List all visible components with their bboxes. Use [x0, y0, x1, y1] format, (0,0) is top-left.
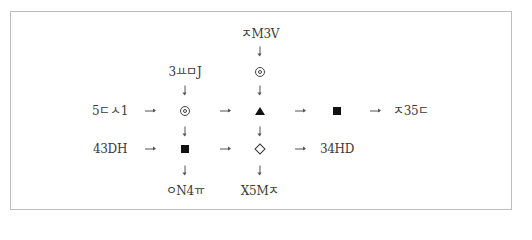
- arrow-right-icon: [295, 111, 305, 112]
- arrow-down-icon: [260, 47, 261, 56]
- double-circle-icon: [180, 106, 190, 116]
- arrow-down-icon: [185, 166, 186, 175]
- input-row1-label: 5ㄷㅅ1: [92, 104, 128, 118]
- input-row2-label: 43DH: [93, 142, 127, 156]
- output-col1-label: ㅇN4ㅠ: [166, 184, 205, 198]
- arrow-down-icon: [185, 127, 186, 136]
- output-row2-label: 34HD: [320, 142, 354, 156]
- arrow-right-icon: [220, 111, 230, 112]
- arrow-right-icon: [370, 111, 380, 112]
- black-square-icon: [333, 107, 341, 115]
- input-col1-label: 3ㅛㅁJ: [168, 65, 201, 79]
- arrow-down-icon: [260, 127, 261, 136]
- arrow-down-icon: [260, 166, 261, 175]
- double-circle-icon: [255, 67, 265, 77]
- arrow-down-icon: [260, 86, 261, 95]
- output-row1-label: ㅈ35ㄷ: [393, 104, 429, 118]
- input-top-col2-label: ㅈM3V: [241, 27, 279, 41]
- arrow-right-icon: [145, 111, 155, 112]
- arrow-down-icon: [185, 86, 186, 95]
- black-triangle-icon: [255, 107, 265, 115]
- arrow-right-icon: [220, 149, 230, 150]
- black-square-icon: [181, 145, 189, 153]
- output-col2-label: X5Mㅈ: [241, 184, 279, 198]
- arrow-right-icon: [295, 149, 305, 150]
- arrow-right-icon: [145, 149, 155, 150]
